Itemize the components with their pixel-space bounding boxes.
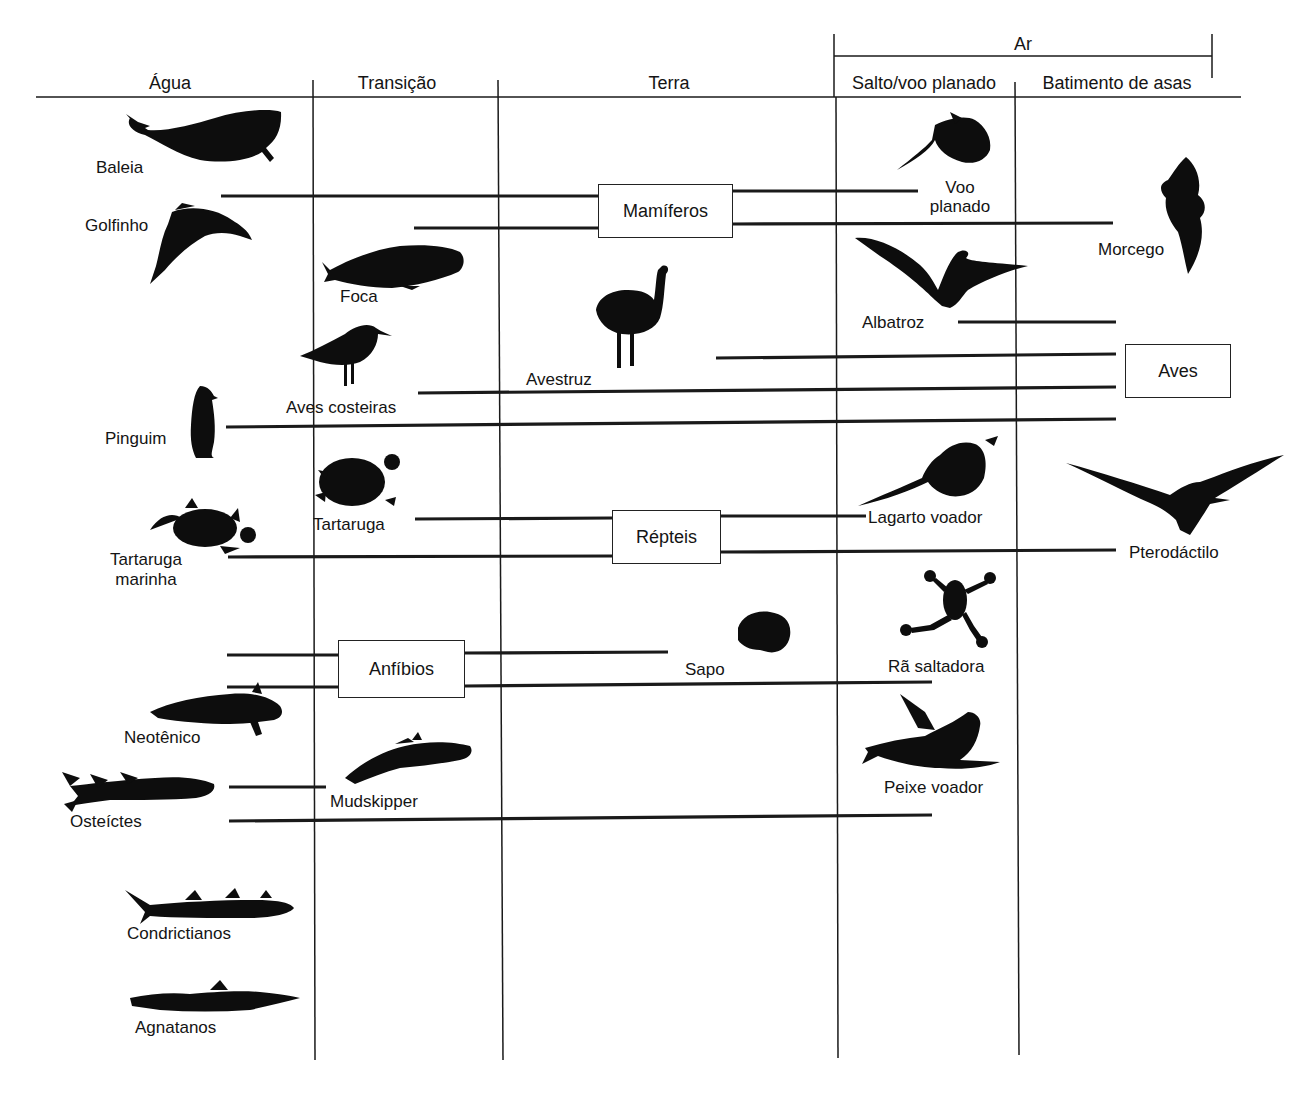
label-voo-planado-line2: planado (930, 197, 991, 217)
group-box-aves: Aves (1125, 344, 1231, 398)
label-golfinho: Golfinho (85, 216, 148, 236)
header-transicao: Transição (358, 73, 436, 94)
label-voo-planado-line1: Voo (945, 178, 974, 198)
pterodactyl-icon (1066, 455, 1284, 535)
label-mudskipper: Mudskipper (330, 792, 418, 812)
leaping-frog-icon (900, 570, 996, 648)
label-morcego: Morcego (1098, 240, 1164, 260)
label-baleia: Baleia (96, 158, 143, 178)
label-neotenico: Neotênico (124, 728, 201, 748)
label-tartaruga: Tartaruga (313, 515, 385, 535)
label-foca: Foca (340, 287, 378, 307)
label-tartaruga-marinha-line2: marinha (115, 570, 176, 590)
label-lagarto-voador: Lagarto voador (868, 508, 982, 528)
label-ra-saltadora: Rã saltadora (888, 657, 984, 677)
mudskipper-icon (345, 732, 472, 784)
label-sapo: Sapo (685, 660, 725, 680)
label-condrictianos: Condrictianos (127, 924, 231, 944)
label-pterodactilo: Pterodáctilo (1129, 543, 1219, 563)
habitat-transition-diagram: Ar Água Transição Terra Salto/voo planad… (0, 0, 1313, 1097)
dolphin-icon (150, 203, 252, 284)
penguin-icon (191, 386, 218, 458)
group-box-anfibios: Anfíbios (338, 640, 465, 698)
label-aves-costeiras: Aves costeiras (286, 398, 396, 418)
label-agnatanos: Agnatanos (135, 1018, 216, 1038)
albatross-icon (855, 238, 1028, 308)
label-albatroz: Albatroz (862, 313, 924, 333)
connector-lines (221, 191, 1116, 821)
sea-turtle-icon (150, 498, 256, 554)
label-avestruz: Avestruz (526, 370, 592, 390)
divider-terra-salto (836, 97, 838, 1058)
whale-icon (126, 110, 281, 162)
ostrich-icon (596, 266, 668, 368)
header-agua: Água (149, 73, 191, 94)
toad-icon (738, 612, 790, 653)
jawless-fish-icon (130, 980, 300, 1012)
label-peixe-voador: Peixe voador (884, 778, 983, 798)
divider-agua-transicao (313, 80, 315, 1060)
seal-icon (322, 245, 464, 290)
bony-fish-icon (62, 772, 214, 812)
header-terra: Terra (648, 73, 689, 94)
group-box-repteis: Répteis (612, 510, 721, 564)
label-osteictes: Osteíctes (70, 812, 142, 832)
header-salto-voo-planado: Salto/voo planado (852, 73, 996, 94)
tortoise-icon (315, 454, 400, 506)
label-pinguim: Pinguim (105, 429, 166, 449)
header-air: Ar (1014, 34, 1032, 55)
header-batimento-de-asas: Batimento de asas (1042, 73, 1191, 94)
flying-fish-icon (862, 694, 1000, 769)
label-tartaruga-marinha-line1: Tartaruga (110, 550, 182, 570)
divider-salto-batimento (1015, 82, 1019, 1055)
bat-icon (1161, 157, 1205, 274)
group-box-mamiferos: Mamíferos (598, 184, 733, 238)
flying-squirrel-icon (897, 112, 990, 170)
flying-lizard-icon (858, 436, 998, 506)
shark-icon (125, 888, 294, 924)
